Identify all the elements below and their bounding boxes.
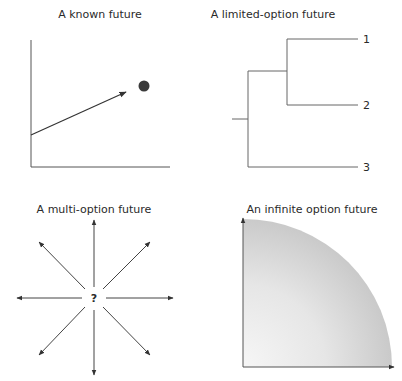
infinite-option-future-panel: [243, 218, 394, 367]
arrow-down-left: [39, 307, 85, 355]
diagram-canvas: 1 2 3 ?: [0, 0, 402, 381]
known-future-panel: [31, 40, 170, 167]
target-dot: [139, 81, 150, 92]
branch-1-label: 1: [363, 33, 370, 46]
arrow-down-right: [103, 307, 150, 355]
limited-option-future-panel: [232, 39, 358, 167]
trend-arrow: [31, 92, 126, 135]
arrow-up-right: [103, 242, 150, 289]
branch-2-label: 2: [363, 99, 370, 112]
arrow-up-left: [39, 242, 85, 289]
branch-3-label: 3: [363, 161, 370, 174]
question-mark-label: ?: [91, 292, 97, 305]
possibility-quarter-circle: [243, 219, 392, 367]
